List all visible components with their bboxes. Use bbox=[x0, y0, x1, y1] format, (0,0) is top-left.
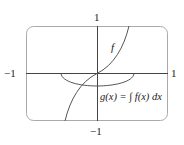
y-tick-bottom: −1 bbox=[90, 126, 102, 137]
y-tick-top: 1 bbox=[94, 12, 100, 23]
g-curve-label: g(x) = ∫ f(x) dx bbox=[100, 92, 162, 103]
x-tick-right: 1 bbox=[171, 68, 177, 79]
f-curve-label: f bbox=[111, 42, 114, 53]
chart-canvas bbox=[0, 0, 184, 145]
x-tick-left: −1 bbox=[4, 68, 16, 79]
